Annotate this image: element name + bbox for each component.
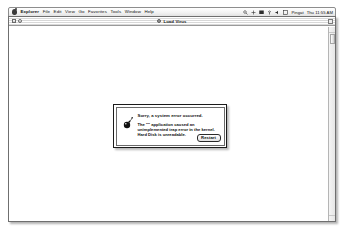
- scroll-down-arrow-icon[interactable]: [329, 215, 335, 221]
- scroll-thumb[interactable]: [330, 34, 335, 44]
- restart-button[interactable]: Restart: [197, 134, 221, 142]
- menu-item-view[interactable]: View: [65, 9, 75, 15]
- menu-bar-status-group: Pingat Thu 11:55 AM: [243, 10, 333, 15]
- search-icon[interactable]: [243, 10, 248, 15]
- menu-item-tools[interactable]: Tools: [110, 9, 121, 15]
- window-title-group: Load Virus: [9, 19, 335, 24]
- apple-logo-icon[interactable]: [12, 9, 17, 15]
- menu-item-favorites[interactable]: Favorites: [88, 9, 107, 15]
- menu-item-edit[interactable]: Edit: [54, 9, 62, 15]
- window-title: Load Virus: [163, 19, 186, 24]
- dialog-inner-frame: Sorry, a system error occurred. The "" a…: [116, 107, 225, 146]
- speaker-icon[interactable]: [275, 10, 280, 15]
- menu-item-go[interactable]: Go: [78, 9, 84, 15]
- menu-item-window[interactable]: Window: [125, 9, 141, 15]
- window-title-bar[interactable]: Load Virus: [9, 17, 335, 26]
- menu-bar-clock[interactable]: Thu 11:55 AM: [307, 10, 333, 15]
- window-control-group: [12, 19, 22, 23]
- dialog-text-block: Sorry, a system error occurred. The "" a…: [138, 113, 220, 137]
- system-error-dialog: Sorry, a system error occurred. The "" a…: [113, 104, 227, 148]
- collapse-box-icon[interactable]: [18, 19, 22, 23]
- menu-item-explorer[interactable]: Explorer: [21, 9, 40, 15]
- menu-item-help[interactable]: Help: [144, 9, 153, 15]
- grow-box-icon[interactable]: [328, 19, 333, 24]
- airport-icon[interactable]: [267, 10, 272, 15]
- dialog-body-line-2: unimplemented trap error in the kernel.: [138, 127, 220, 132]
- plus-icon[interactable]: [251, 10, 256, 15]
- menu-item-file[interactable]: File: [43, 9, 50, 15]
- menu-bar-left-group: Explorer File Edit View Go Favorites Too…: [11, 9, 154, 15]
- vertical-scrollbar[interactable]: [328, 27, 335, 221]
- dialog-heading: Sorry, a system error occurred.: [138, 113, 220, 119]
- document-icon: [157, 19, 161, 23]
- scroll-up-arrow-icon[interactable]: [329, 27, 335, 33]
- display-icon[interactable]: [259, 10, 264, 15]
- desktop-background: Explorer File Edit View Go Favorites Too…: [0, 0, 342, 245]
- bomb-icon: [122, 115, 134, 127]
- close-box-icon[interactable]: [12, 19, 16, 23]
- applescript-icon[interactable]: [283, 10, 288, 15]
- user-label[interactable]: Pingat: [291, 10, 303, 15]
